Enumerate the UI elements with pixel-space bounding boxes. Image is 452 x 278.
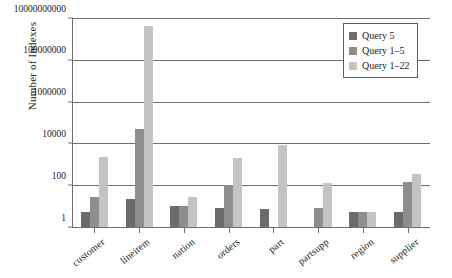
bar bbox=[215, 208, 224, 227]
bar bbox=[367, 212, 376, 227]
bar-group bbox=[251, 18, 296, 227]
bar bbox=[224, 185, 233, 227]
x-tick-mark bbox=[408, 228, 409, 233]
x-axis-label: supplier bbox=[387, 236, 420, 265]
x-tick-mark bbox=[94, 228, 95, 233]
bar bbox=[394, 212, 403, 227]
y-tick-label: 100 bbox=[52, 172, 66, 182]
x-tick-mark bbox=[229, 228, 230, 233]
x-axis-label: part bbox=[266, 236, 286, 255]
bar bbox=[323, 183, 332, 227]
bar bbox=[278, 145, 287, 227]
bar bbox=[126, 199, 135, 227]
bar bbox=[179, 206, 188, 227]
y-tick-label: 10000000000 bbox=[14, 5, 66, 15]
bar bbox=[188, 197, 197, 227]
bar-group bbox=[206, 18, 251, 227]
x-tick-mark bbox=[318, 228, 319, 233]
x-tick-mark bbox=[139, 228, 140, 233]
x-axis-label: customer bbox=[70, 236, 107, 268]
x-axis-label: partsupp bbox=[296, 236, 331, 267]
bar bbox=[412, 174, 421, 227]
bar bbox=[314, 208, 323, 227]
chart-legend: Query 5Query 1–5Query 1–22 bbox=[343, 23, 418, 78]
bar bbox=[403, 182, 412, 227]
bar bbox=[99, 157, 108, 227]
x-tick-mark bbox=[184, 228, 185, 233]
x-tick-mark bbox=[363, 228, 364, 233]
legend-label: Query 5 bbox=[362, 30, 395, 41]
legend-label: Query 1–22 bbox=[362, 60, 410, 71]
bar-group bbox=[117, 18, 162, 227]
bar bbox=[90, 197, 99, 227]
y-tick-label: 100000000 bbox=[23, 47, 66, 57]
x-tick-mark bbox=[273, 228, 274, 233]
x-axis-label: nation bbox=[169, 236, 196, 261]
bar bbox=[349, 212, 358, 227]
bar bbox=[81, 212, 90, 227]
bar bbox=[233, 158, 242, 227]
y-tick-label: 10000 bbox=[42, 130, 66, 140]
x-axis-label: lineitem bbox=[118, 236, 152, 266]
legend-swatch-icon bbox=[349, 62, 357, 70]
gridline bbox=[72, 227, 430, 228]
bar-group bbox=[72, 18, 117, 227]
bar bbox=[170, 206, 179, 227]
y-tick-label: 1 bbox=[61, 214, 66, 224]
y-tick-label: 1000000 bbox=[33, 88, 66, 98]
bar-chart: Number of Indexes 1100100001000000100000… bbox=[0, 0, 452, 278]
legend-item: Query 5 bbox=[349, 28, 410, 43]
legend-item: Query 1–5 bbox=[349, 43, 410, 58]
legend-item: Query 1–22 bbox=[349, 58, 410, 73]
bar-group bbox=[296, 18, 341, 227]
legend-label: Query 1–5 bbox=[362, 45, 405, 56]
x-axis-label: orders bbox=[214, 236, 241, 261]
bar bbox=[358, 212, 367, 227]
bar-group bbox=[162, 18, 207, 227]
bar bbox=[144, 26, 153, 227]
bar bbox=[135, 129, 144, 227]
x-axis-label: region bbox=[348, 236, 376, 261]
legend-swatch-icon bbox=[349, 32, 357, 40]
bar bbox=[260, 209, 269, 227]
legend-swatch-icon bbox=[349, 47, 357, 55]
y-axis-title: Number of Indexes bbox=[26, 0, 38, 146]
